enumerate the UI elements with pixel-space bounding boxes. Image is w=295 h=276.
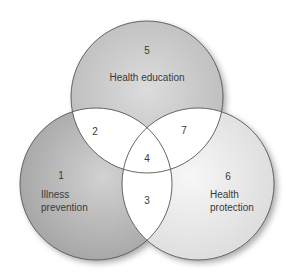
region-6-number: 6 [225, 171, 231, 182]
venn-diagram: 5 Health education 2 7 4 1 Illness preve… [0, 0, 295, 276]
illness-label: Illness [41, 189, 69, 200]
protection-label: protection [210, 202, 254, 213]
region-3-number: 3 [144, 195, 150, 206]
health-label: Health [210, 189, 239, 200]
region-7-number: 7 [181, 125, 187, 136]
region-5-number: 5 [144, 45, 150, 56]
region-1-number: 1 [58, 170, 64, 181]
venn-svg: 5 Health education 2 7 4 1 Illness preve… [0, 0, 295, 276]
region-2-number: 2 [92, 126, 98, 137]
prevention-label: prevention [41, 202, 88, 213]
health-education-label: Health education [109, 72, 184, 83]
region-4-number: 4 [144, 153, 150, 164]
